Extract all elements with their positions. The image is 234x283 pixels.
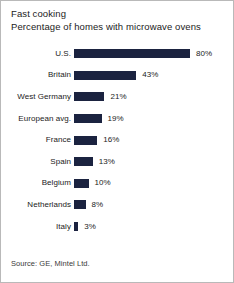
bar-category-label: U.S. (1, 49, 71, 59)
bar-row: France16% (1, 129, 234, 151)
bar-group: 3% (74, 222, 96, 232)
bar (74, 157, 93, 166)
bar-group: 21% (74, 92, 127, 102)
bar (74, 200, 86, 209)
bar-group: 10% (74, 178, 111, 188)
bar-value-label: 43% (142, 70, 158, 80)
bar (74, 136, 97, 145)
chart-subtitle: Percentage of homes with microwave ovens (11, 20, 229, 33)
bar-value-label: 8% (92, 200, 104, 210)
bar-group: 16% (74, 135, 119, 145)
bar-value-label: 16% (103, 135, 119, 145)
bar-category-label: Netherlands (1, 200, 71, 210)
bar-value-label: 10% (95, 178, 111, 188)
bar-group: 43% (74, 70, 159, 80)
bar-value-label: 13% (99, 157, 115, 167)
bar-category-label: Italy (1, 222, 71, 232)
bar-row: Belgium10% (1, 173, 234, 195)
bar-chart-plot: U.S.80%Britain43%West Germany21%European… (1, 43, 234, 237)
bar (74, 179, 89, 188)
bar (74, 222, 78, 231)
bar-row: Italy3% (1, 216, 234, 238)
chart-card: Fast cooking Percentage of homes with mi… (0, 0, 234, 283)
bar-category-label: Spain (1, 157, 71, 167)
bar-category-label: Belgium (1, 178, 71, 188)
bar-value-label: 80% (196, 49, 212, 59)
bar-category-label: West Germany (1, 92, 71, 102)
bar-group: 8% (74, 200, 103, 210)
bar (74, 71, 136, 80)
bar-group: 80% (74, 49, 212, 59)
bar-row: European avg.19% (1, 108, 234, 130)
bar-row: Netherlands8% (1, 194, 234, 216)
chart-title: Fast cooking (11, 7, 229, 20)
bar (74, 114, 102, 123)
chart-header: Fast cooking Percentage of homes with mi… (11, 7, 229, 33)
bar-row: Spain13% (1, 151, 234, 173)
bar-group: 19% (74, 114, 124, 124)
bar (74, 49, 190, 58)
bar-row: West Germany21% (1, 86, 234, 108)
bar-category-label: Britain (1, 70, 71, 80)
bar-row: Britain43% (1, 65, 234, 87)
bar-value-label: 19% (108, 114, 124, 124)
bar-value-label: 21% (110, 92, 126, 102)
bar (74, 92, 104, 101)
bar-group: 13% (74, 157, 115, 167)
bar-row: U.S.80% (1, 43, 234, 65)
bar-value-label: 3% (84, 222, 96, 232)
chart-source: Source: GE, Mintel Ltd. (11, 259, 90, 269)
bar-category-label: France (1, 135, 71, 145)
bar-category-label: European avg. (1, 114, 71, 124)
